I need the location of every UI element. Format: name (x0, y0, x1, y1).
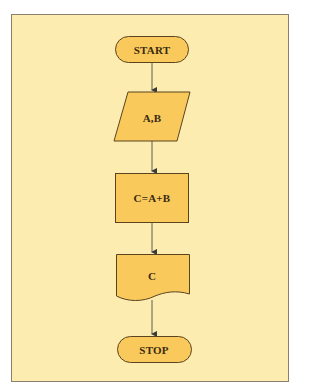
input-label: A,B (143, 113, 162, 124)
process-label: C=A+B (134, 193, 171, 204)
start-label: START (134, 45, 170, 56)
stop-label: STOP (139, 345, 168, 356)
output-label: C (148, 271, 156, 282)
